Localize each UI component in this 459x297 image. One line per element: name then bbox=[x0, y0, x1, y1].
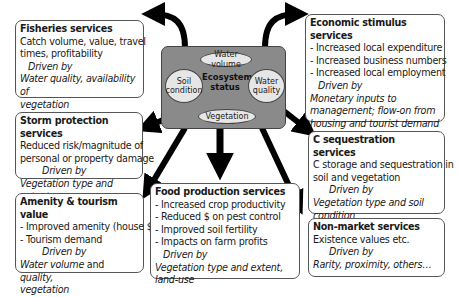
nonmarket-driven-by: Driven by bbox=[313, 246, 440, 259]
nonmarket-line: Existence values etc. bbox=[313, 234, 440, 247]
carbon-driven-by: Driven by bbox=[313, 184, 440, 197]
food-line: - Improved soil fertility bbox=[155, 224, 295, 237]
ellipse-vegetation: Vegetation bbox=[198, 109, 256, 124]
non-market-box: Non-market services Existence values etc… bbox=[308, 218, 445, 277]
fisheries-line: Catch volume, value, travel bbox=[20, 36, 139, 49]
amenity-tourism-box: Amenity & tourism value - Improved ameni… bbox=[15, 193, 144, 273]
carbon-line: soil and vegetation bbox=[313, 172, 440, 185]
fisheries-drivers: vegetation bbox=[20, 99, 139, 112]
food-driven-by: Driven by bbox=[155, 249, 295, 262]
amenity-driver-water-volume: Water volume bbox=[20, 259, 84, 270]
economic-drivers: management; flow-on from bbox=[310, 105, 440, 118]
food-title: Food production services bbox=[155, 186, 295, 199]
c-sequestration-box: C sequestration services C storage and s… bbox=[308, 131, 445, 214]
amenity-line: - Tourism demand bbox=[20, 234, 139, 247]
economic-stimulus-box: Economic stimulus services - Increased l… bbox=[305, 14, 445, 122]
food-line: - Reduced $ on pest control bbox=[155, 211, 295, 224]
fisheries-title: Fisheries services bbox=[20, 23, 139, 36]
food-line: - Impacts on farm profits bbox=[155, 236, 295, 249]
water-volume-label: Water volume bbox=[201, 50, 251, 69]
fisheries-driven-by: Driven by bbox=[20, 61, 139, 74]
nonmarket-drivers: Rarity, proximity, others… bbox=[313, 259, 440, 272]
carbon-title: C sequestration services bbox=[313, 134, 440, 159]
food-production-box: Food production services - Increased cro… bbox=[150, 183, 300, 279]
center-label-line2: status bbox=[210, 82, 240, 92]
amenity-drivers: vegetation bbox=[20, 284, 139, 297]
storm-line: Reduced risk/magnitude of bbox=[20, 140, 138, 153]
economic-line: - Increased local employment bbox=[310, 67, 440, 80]
economic-line: - Increased business numbers bbox=[310, 55, 440, 68]
ecosystem-status-label: Ecosystemstatus bbox=[202, 72, 248, 92]
amenity-driver-quality: quality, bbox=[20, 272, 53, 283]
food-drivers: Vegetation type and extent, land-use bbox=[155, 262, 295, 287]
fisheries-line: times, profitability bbox=[20, 48, 139, 61]
storm-protection-box: Storm protection services Reduced risk/m… bbox=[15, 112, 143, 179]
nonmarket-title: Non-market services bbox=[313, 221, 440, 234]
arrow-to-economic bbox=[265, 14, 298, 48]
amenity-driven-by: Driven by bbox=[20, 246, 139, 259]
amenity-driver-and: and bbox=[84, 259, 104, 270]
storm-title: Storm protection services bbox=[20, 115, 138, 140]
economic-title: Economic stimulus services bbox=[310, 17, 440, 42]
fisheries-drivers: Water quality, availability of bbox=[20, 73, 139, 98]
soil-label-1: Soil bbox=[177, 77, 191, 86]
soil-label-2: condition bbox=[166, 86, 203, 95]
water-quality-label-2: quality bbox=[253, 86, 280, 95]
carbon-drivers: Vegetation type and soil bbox=[313, 197, 440, 210]
vegetation-label: Vegetation bbox=[205, 112, 248, 122]
center-label-line1: Ecosystem bbox=[202, 72, 252, 82]
amenity-line: - Improved amenity (house $) bbox=[20, 221, 139, 234]
economic-drivers: Monetary inputs to bbox=[310, 93, 440, 106]
economic-drivers: housing and tourist demand bbox=[310, 118, 440, 131]
economic-line: - Increased local expenditure bbox=[310, 42, 440, 55]
ellipse-water-volume: Water volume bbox=[200, 52, 252, 67]
fisheries-services-box: Fisheries services Catch volume, value, … bbox=[15, 20, 144, 98]
storm-line: personal or property damage bbox=[20, 153, 138, 166]
ellipse-water-quality: Waterquality bbox=[248, 69, 285, 103]
food-line: - Increased crop productivity bbox=[155, 199, 295, 212]
ellipse-soil-condition: Soilcondition bbox=[165, 69, 203, 103]
amenity-title: Amenity & tourism value bbox=[20, 196, 139, 221]
economic-driven-by: Driven by bbox=[310, 80, 440, 93]
arrow-to-fisheries bbox=[152, 14, 185, 48]
storm-driven-by: Driven by bbox=[20, 165, 138, 178]
water-quality-label-1: Water bbox=[255, 77, 279, 86]
carbon-line: C storage and sequestration in bbox=[313, 159, 440, 172]
ecosystem-status-box: Water volume Soilcondition Ecosystemstat… bbox=[161, 46, 286, 129]
